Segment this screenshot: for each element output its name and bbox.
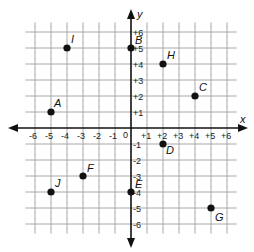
point-j: J — [47, 177, 61, 196]
point-dot-icon — [159, 60, 166, 67]
x-axis-left-arrow-icon — [8, 124, 18, 132]
x-tick-label: -6 — [29, 131, 37, 141]
point-a: A — [47, 97, 61, 116]
point-label: I — [71, 33, 74, 45]
point-label: J — [54, 177, 61, 189]
point-label: B — [135, 34, 142, 46]
point-dot-icon — [207, 204, 214, 211]
point-label: H — [167, 49, 175, 61]
point-i: I — [63, 33, 74, 52]
point-dot-icon — [63, 44, 70, 51]
point-label: E — [135, 178, 143, 190]
point-g: G — [207, 204, 224, 223]
point-label: A — [53, 97, 61, 109]
y-tick-label: +1 — [133, 108, 143, 118]
x-tick-label: +3 — [173, 131, 183, 141]
y-tick-label: -2 — [133, 156, 141, 166]
x-tick-label: +4 — [189, 131, 199, 141]
x-tick-label: +2 — [157, 131, 167, 141]
coordinate-plane: x y 0 -6-5-4-3-2-1+1+2+3+4+5+6 +6+5+4+3+… — [0, 0, 254, 252]
x-tick-label: -4 — [61, 131, 69, 141]
x-tick-label: -1 — [109, 131, 117, 141]
x-tick-label: -3 — [77, 131, 85, 141]
y-axis-down-arrow-icon — [127, 238, 135, 248]
y-axis-up-arrow-icon — [127, 9, 135, 19]
x-tick-label: +6 — [221, 131, 231, 141]
y-tick-label: -6 — [133, 220, 141, 230]
point-dot-icon — [127, 188, 134, 195]
y-axis-label: y — [136, 8, 144, 20]
x-tick-labels: -6-5-4-3-2-1+1+2+3+4+5+6 — [29, 131, 231, 141]
point-label: F — [87, 162, 95, 174]
point-dot-icon — [79, 172, 86, 179]
x-tick-label: +5 — [205, 131, 215, 141]
point-d: D — [159, 140, 174, 156]
y-tick-label: +2 — [133, 92, 143, 102]
y-tick-label: +3 — [133, 76, 143, 86]
point-dot-icon — [47, 108, 54, 115]
y-tick-label: +4 — [133, 60, 143, 70]
point-dot-icon — [191, 92, 198, 99]
point-dot-icon — [127, 44, 134, 51]
x-axis-label: x — [239, 113, 246, 125]
y-tick-label: -5 — [133, 204, 141, 214]
y-tick-labels: +6+5+4+3+2+1-1-2-3-4-5-6 — [133, 28, 143, 230]
point-h: H — [159, 49, 175, 68]
point-f: F — [79, 162, 95, 180]
point-label: D — [166, 144, 174, 156]
x-axis-right-arrow-icon — [238, 124, 248, 132]
point-label: C — [199, 81, 207, 93]
point-label: G — [215, 211, 224, 223]
y-tick-label: -1 — [133, 140, 141, 150]
point-c: C — [191, 81, 207, 100]
x-tick-label: -2 — [93, 131, 101, 141]
point-dot-icon — [47, 188, 54, 195]
origin-label: 0 — [123, 130, 128, 140]
x-tick-label: -5 — [45, 131, 53, 141]
x-tick-label: +1 — [141, 131, 151, 141]
